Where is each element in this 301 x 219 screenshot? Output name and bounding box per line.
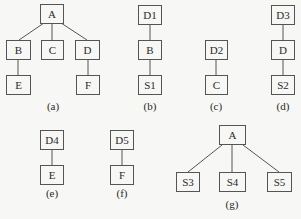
node-e-E: E (40, 165, 64, 185)
caption-f: (f) (107, 187, 137, 199)
node-d-D3: D3 (271, 5, 295, 25)
node-f-F: F (110, 165, 134, 185)
caption-c: (c) (201, 100, 231, 112)
node-g-S3: S3 (176, 172, 200, 192)
node-c-D2: D2 (205, 40, 228, 60)
node-d-S2: S2 (271, 75, 295, 95)
node-b-B: B (138, 40, 162, 60)
node-b-D1: D1 (138, 5, 162, 25)
node-b-S1: S1 (138, 75, 162, 95)
caption-d: (d) (268, 100, 298, 112)
caption-g: (g) (217, 198, 247, 210)
node-g-A: A (219, 125, 246, 145)
node-g-S4: S4 (219, 172, 246, 192)
node-c-C: C (205, 75, 228, 95)
node-a-C: C (41, 40, 64, 60)
caption-b: (b) (135, 100, 165, 112)
node-g-S5: S5 (267, 172, 292, 192)
caption-a: (a) (38, 100, 68, 112)
node-a-E: E (6, 75, 31, 95)
node-a-D: D (75, 40, 100, 60)
node-d-D: D (271, 40, 295, 60)
caption-e: (e) (37, 187, 67, 199)
node-a-A: A (40, 4, 64, 24)
node-f-D5: D5 (110, 130, 134, 150)
node-a-B: B (6, 40, 31, 60)
node-e-D4: D4 (40, 130, 64, 150)
node-a-F: F (76, 75, 100, 95)
